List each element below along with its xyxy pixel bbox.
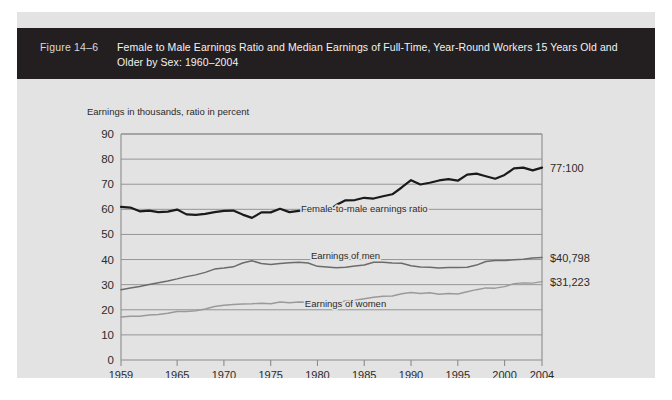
y-axis-tick-label: 40 bbox=[101, 254, 114, 266]
series-label-women: Earnings of women bbox=[305, 298, 386, 309]
x-axis-tick-label: 1975 bbox=[258, 369, 282, 378]
y-axis-tick-label: 80 bbox=[101, 153, 114, 165]
line-chart: 0102030405060708090195919651970197519801… bbox=[17, 79, 655, 378]
figure-panel: Figure 14–6 Female to Male Earnings Rati… bbox=[17, 12, 655, 378]
x-axis-tick-label: 1970 bbox=[212, 369, 236, 378]
annotation-men: $40,798 bbox=[550, 252, 590, 264]
x-axis-tick-label: 2004 bbox=[530, 369, 554, 378]
figure-header-bar: Figure 14–6 Female to Male Earnings Rati… bbox=[17, 28, 655, 79]
annotation-women: $31,223 bbox=[550, 276, 590, 288]
y-axis-tick-label: 60 bbox=[101, 203, 114, 215]
figure-title: Female to Male Earnings Ratio and Median… bbox=[117, 40, 637, 69]
x-axis-tick-label: 1985 bbox=[352, 369, 376, 378]
y-axis-tick-label: 70 bbox=[101, 178, 114, 190]
chart-area: Earnings in thousands, ratio in percent … bbox=[17, 79, 655, 378]
x-axis-tick-label: 1965 bbox=[165, 369, 189, 378]
x-axis-tick-label: 2000 bbox=[492, 369, 516, 378]
annotation-ratio: 77:100 bbox=[550, 162, 584, 174]
y-axis-tick-label: 30 bbox=[101, 279, 114, 291]
y-axis-tick-label: 10 bbox=[101, 329, 114, 341]
y-axis-tick-label: 90 bbox=[101, 128, 114, 140]
y-axis-tick-label: 50 bbox=[101, 228, 114, 240]
y-axis-tick-label: 20 bbox=[101, 304, 114, 316]
figure-number-label: Figure 14–6 bbox=[40, 41, 98, 53]
series-label-men: Earnings of men bbox=[311, 250, 380, 261]
series-label-ratio: Female-to-male earnings ratio bbox=[301, 203, 428, 214]
x-axis-tick-label: 1995 bbox=[446, 369, 470, 378]
y-axis-tick-label: 0 bbox=[108, 354, 114, 366]
x-axis-tick-label: 1980 bbox=[305, 369, 329, 378]
x-axis-tick-label: 1990 bbox=[399, 369, 423, 378]
x-axis-tick-label: 1959 bbox=[109, 369, 133, 378]
